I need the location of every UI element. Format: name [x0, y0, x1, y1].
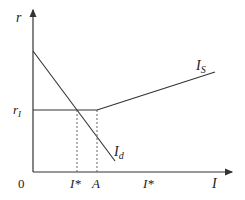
x-tick-equilibrium-2: I* — [142, 176, 154, 191]
investment-diagram: r rI IS Id 0 I* A I* I — [0, 0, 245, 200]
supply-curve — [97, 72, 215, 110]
x-axis-label: I — [211, 176, 218, 191]
origin-label: 0 — [18, 176, 25, 191]
x-tick-equilibrium: I* — [69, 176, 81, 191]
y-axis-label: r — [16, 10, 22, 25]
supply-curve-label: IS — [195, 58, 206, 75]
demand-curve — [33, 51, 115, 161]
rate-level-label: rI — [13, 102, 22, 119]
demand-curve-label: Id — [113, 144, 125, 161]
x-tick-a: A — [91, 176, 100, 191]
